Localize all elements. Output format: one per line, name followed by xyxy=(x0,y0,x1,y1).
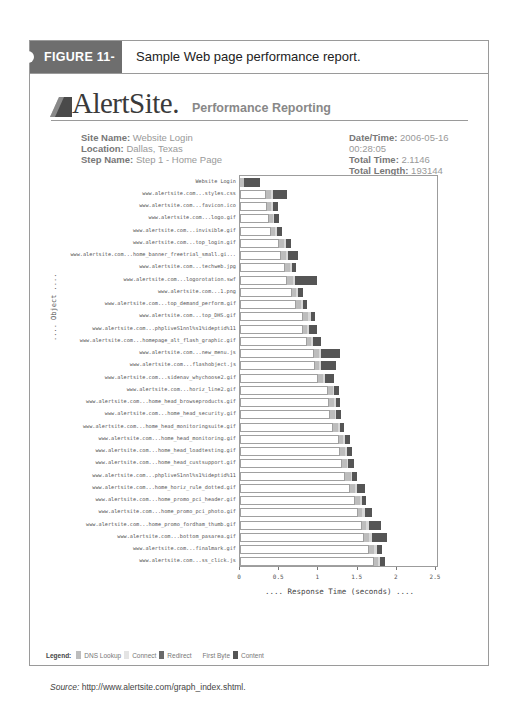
object-label: www.alertsite.com...new_menu.js xyxy=(139,349,236,355)
location-value: Dallas, Texas xyxy=(126,143,182,154)
timing-bar xyxy=(240,496,366,505)
object-label: www.alertsite.com...homepage_alt_flash_g… xyxy=(80,337,236,343)
ct-segment xyxy=(336,398,341,407)
ct-segment xyxy=(340,423,345,432)
timing-bar xyxy=(240,410,341,419)
x-tick-label: 1 xyxy=(316,573,320,580)
ct-segment xyxy=(357,484,366,493)
fb-segment xyxy=(240,459,342,468)
timing-bar xyxy=(240,190,287,199)
timing-bar xyxy=(240,325,317,334)
object-label: www.alertsite.com...home_head_monitoring… xyxy=(99,435,236,441)
ct-segment xyxy=(372,533,388,542)
object-label: www.alertsite.com...bottom_pasarea.gif xyxy=(117,533,236,539)
fb-segment xyxy=(240,423,333,432)
ct-segment xyxy=(295,276,317,285)
fb-segment xyxy=(240,276,287,285)
fb-segment xyxy=(240,214,269,223)
object-labels: Website Loginwww.alertsite.com...styles.… xyxy=(30,175,236,567)
figure-source: Source: http://www.alertsite.com/graph_i… xyxy=(50,682,246,692)
object-label: www.alertsite.com...phpliveS1nnl%s1%idep… xyxy=(92,472,236,478)
fb-segment xyxy=(240,288,292,297)
ct-segment xyxy=(334,386,339,395)
ct-segment xyxy=(362,496,367,505)
timing-bar xyxy=(240,386,339,395)
legend-swatch xyxy=(159,651,164,659)
fb-segment xyxy=(240,496,355,505)
object-label: www.alertsite.com...sidenav_whychoose2.g… xyxy=(105,374,236,380)
alertsite-logo-icon xyxy=(50,95,72,117)
plot-area xyxy=(239,175,438,567)
object-label: www.alertsite.com...home_promo_pci_photo… xyxy=(99,508,236,514)
timing-bar xyxy=(240,447,352,456)
timing-bar xyxy=(240,337,321,346)
step-name-value: Step 1 - Home Page xyxy=(136,154,222,165)
timing-bar xyxy=(240,374,334,383)
object-label: www.alertsite.com...top_demand_perform.g… xyxy=(105,300,236,306)
legend-swatch xyxy=(233,651,238,659)
step-name-row: Step Name: Step 1 - Home Page xyxy=(81,154,222,165)
datetime-row: Date/Time: 2006-05-16 00:28:05 xyxy=(349,132,488,154)
object-label: www.alertsite.com...phpliveS1nnl%s1%idep… xyxy=(92,325,236,331)
legend-label: First Byte xyxy=(203,652,230,659)
ct-segment xyxy=(325,374,334,383)
fb-segment xyxy=(240,300,296,309)
total-time-row: Total Time: 2.1146 xyxy=(349,154,488,165)
timing-bar xyxy=(240,533,387,542)
timing-bar xyxy=(240,276,317,285)
ct-segment xyxy=(369,521,381,530)
site-name-label: Site Name: xyxy=(81,132,130,143)
timing-bar xyxy=(240,263,296,272)
x-tick-label: 2 xyxy=(394,573,398,580)
ct-segment xyxy=(377,545,382,554)
ct-segment xyxy=(365,508,373,517)
object-label: www.alertsite.com...techweb.jpg xyxy=(139,263,236,269)
object-label: www.alertsite.com...flashobject.js xyxy=(130,361,236,367)
timing-bar xyxy=(240,557,385,566)
ct-segment xyxy=(277,227,282,236)
fb-segment xyxy=(240,472,345,481)
datetime-label: Date/Time: xyxy=(349,132,397,143)
object-label: www.alertsite.com...invisible.gif xyxy=(133,227,236,233)
fb-segment xyxy=(240,337,307,346)
object-label: www.alertsite.com...home_banner_freetria… xyxy=(70,251,236,257)
fb-segment xyxy=(240,484,350,493)
meta-right: Date/Time: 2006-05-16 00:28:05 Total Tim… xyxy=(349,132,488,176)
ct-segment xyxy=(288,251,298,260)
ct-segment xyxy=(352,472,357,481)
ct-segment xyxy=(309,325,317,334)
fb-segment xyxy=(240,239,279,248)
x-tick xyxy=(435,567,436,570)
fb-segment xyxy=(240,533,364,542)
ct-segment xyxy=(321,349,341,358)
object-label: www.alertsite.com...home_head_security.g… xyxy=(105,410,236,416)
brand-subtitle: Performance Reporting xyxy=(192,101,331,115)
fb-segment xyxy=(240,325,303,334)
location-label: Location: xyxy=(81,143,124,154)
object-label: www.alertsite.com...favicon.ico xyxy=(139,202,236,208)
x-tick xyxy=(278,567,279,570)
fb-segment xyxy=(240,312,303,321)
ct-segment xyxy=(348,459,353,468)
legend-title: Legend: xyxy=(46,652,71,659)
x-tick-label: 2.5 xyxy=(430,573,441,580)
timing-bar xyxy=(240,545,382,554)
ct-segment xyxy=(292,263,297,272)
legend-label: DNS Lookup xyxy=(84,652,121,659)
ct-segment xyxy=(345,435,350,444)
fb-segment xyxy=(240,349,314,358)
object-label: www.alertsite.com...finalmark.gif xyxy=(133,545,236,551)
fb-segment xyxy=(240,398,329,407)
x-tick-label: 0.5 xyxy=(273,573,284,580)
object-label: www.alertsite.com...home_head_browseprod… xyxy=(86,398,236,404)
object-label: www.alertsite.com...1.png xyxy=(158,288,236,294)
timing-bar xyxy=(240,214,279,223)
ct-segment xyxy=(274,214,279,223)
figure-frame: FIGURE 11-5 Sample Web page performance … xyxy=(29,40,489,666)
chart-legend: Legend: DNS LookupConnectRedirectFirst B… xyxy=(46,651,264,659)
source-label: Source: xyxy=(50,682,79,692)
timing-bar xyxy=(240,484,365,493)
timing-bar xyxy=(240,227,282,236)
object-label: Website Login xyxy=(195,178,236,184)
ct-segment xyxy=(298,288,303,297)
